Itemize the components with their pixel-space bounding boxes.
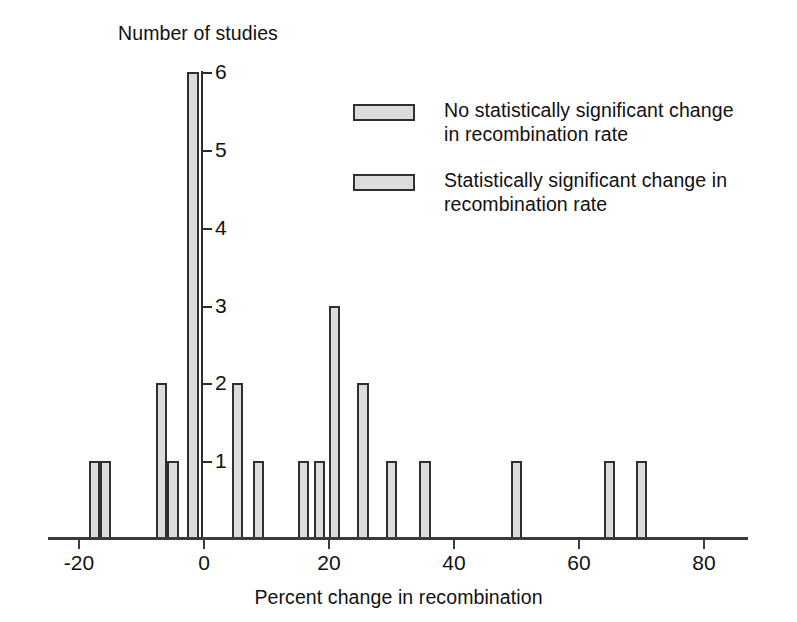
legend-item: Statistically significant change in reco…	[353, 168, 773, 216]
histogram-bar	[636, 461, 647, 539]
y-tick-mark	[203, 461, 212, 463]
y-tick-label: 6	[215, 61, 227, 82]
histogram-bar	[511, 461, 522, 539]
histogram-bar	[604, 461, 615, 539]
x-tick-label: 40	[419, 551, 489, 575]
histogram-bar	[298, 461, 309, 539]
y-tick-label: 4	[215, 217, 227, 238]
histogram-bar	[314, 461, 325, 539]
histogram-chart: Number of studies 123456 -20020406080 Pe…	[0, 0, 797, 622]
legend-label: No statistically significant change in r…	[444, 98, 734, 146]
y-tick-mark	[203, 228, 212, 230]
x-tick-label: 60	[544, 551, 614, 575]
x-axis-title: Percent change in recombination	[0, 586, 797, 609]
y-tick-label: 5	[215, 139, 227, 160]
histogram-bar	[156, 383, 167, 539]
histogram-bar	[167, 461, 178, 539]
y-tick-mark	[203, 72, 212, 74]
plot-area: 123456 -20020406080	[0, 0, 797, 560]
histogram-bar	[187, 72, 198, 539]
histogram-bar	[419, 461, 430, 539]
histogram-bar	[100, 461, 111, 539]
legend-swatch	[353, 174, 415, 191]
histogram-bar	[89, 461, 100, 539]
x-tick-mark	[703, 540, 705, 549]
bars-layer	[0, 0, 797, 539]
legend-item: No statistically significant change in r…	[353, 98, 773, 146]
histogram-bar	[329, 306, 340, 539]
y-tick-label: 3	[215, 295, 227, 316]
x-axis-line	[48, 537, 748, 540]
histogram-bar	[232, 383, 243, 539]
x-tick-label: 80	[669, 551, 739, 575]
histogram-bar	[253, 461, 264, 539]
x-tick-mark	[78, 540, 80, 549]
x-tick-label: 0	[169, 551, 239, 575]
x-tick-mark	[578, 540, 580, 549]
legend-swatch	[353, 104, 415, 121]
y-tick-mark	[203, 383, 212, 385]
y-tick-mark	[203, 306, 212, 308]
x-tick-mark	[203, 540, 205, 549]
legend-label: Statistically significant change in reco…	[444, 168, 727, 216]
x-tick-label: -20	[44, 551, 114, 575]
x-tick-label: 20	[294, 551, 364, 575]
y-tick-label: 1	[215, 450, 227, 471]
chart-legend: No statistically significant change in r…	[353, 98, 773, 238]
histogram-bar	[357, 383, 368, 539]
x-tick-mark	[453, 540, 455, 549]
y-tick-mark	[203, 150, 212, 152]
y-tick-label: 2	[215, 372, 227, 393]
x-tick-mark	[328, 540, 330, 549]
histogram-bar	[386, 461, 397, 539]
